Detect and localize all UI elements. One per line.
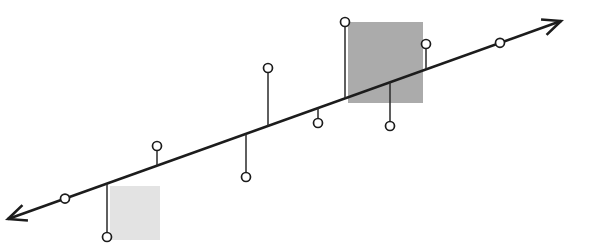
stem-marker-s7 bbox=[386, 122, 395, 131]
stem-marker-s3 bbox=[242, 173, 251, 182]
stem-plot-svg bbox=[0, 0, 590, 252]
stem-marker-s2 bbox=[153, 142, 162, 151]
stem-marker-s6 bbox=[341, 18, 350, 27]
axis-marker-b2 bbox=[496, 38, 505, 47]
stem-marker-s5 bbox=[314, 119, 323, 128]
light-highlight-region bbox=[110, 186, 160, 240]
stem-marker-s8 bbox=[422, 40, 431, 49]
stem-marker-s1 bbox=[103, 233, 112, 242]
stem-marker-s4 bbox=[264, 64, 273, 73]
dark-highlight-region bbox=[348, 22, 423, 103]
axis-marker-b1 bbox=[61, 194, 70, 203]
diagram-canvas bbox=[0, 0, 590, 252]
